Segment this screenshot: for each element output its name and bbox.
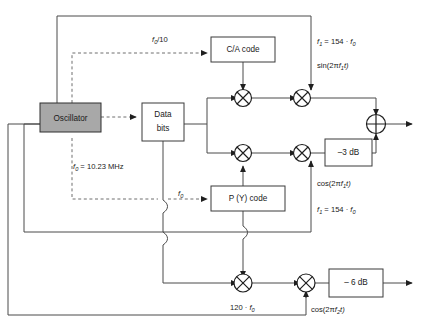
wire-data-bits-split	[184, 98, 237, 153]
label-cos1-t: t)	[346, 179, 351, 188]
block-attenuator-6db[interactable]: – 6 dB	[329, 269, 383, 297]
label-l2-carrier-cos: cos(2πf2t)	[311, 305, 345, 315]
label-sin-t: t)	[344, 61, 349, 70]
label-l1-bot-f0-sub: 0	[352, 209, 356, 215]
mixer-l2-carrier[interactable]	[297, 274, 315, 292]
block-attenuator-6db-label: – 6 dB	[344, 278, 368, 287]
block-ca-code[interactable]: C/A code	[211, 37, 275, 62]
label-ca-clock-rest: /10	[157, 35, 168, 44]
summer-node[interactable]	[367, 115, 386, 134]
label-l1-bot-eq: = 154 ·	[322, 205, 350, 214]
block-data-bits[interactable]: Data bits	[142, 103, 184, 141]
mixer-l1-inphase[interactable]	[294, 90, 311, 107]
label-cos2-t: t)	[340, 305, 345, 314]
block-data-bits-label-line2: bits	[157, 124, 170, 133]
label-py-clock-sub: 0	[180, 193, 184, 199]
block-data-bits-label-line1: Data	[154, 110, 172, 119]
label-l2-multiplier: 120 · f0	[230, 303, 256, 313]
wire-data-bits-to-l2	[163, 141, 237, 283]
block-ca-code-label: C/A code	[226, 45, 260, 54]
label-oscillator-frequency: f0 = 10.23 MHz	[73, 162, 124, 172]
mixer-py-data[interactable]	[235, 145, 252, 162]
block-py-code[interactable]: P (Y) code	[211, 186, 285, 211]
label-cos1-a: cos(2	[317, 179, 336, 188]
label-l2-mult-sub: 0	[252, 307, 256, 313]
block-attenuator-3db[interactable]: –3 dB	[325, 139, 372, 166]
label-l2-mult-a: 120 ·	[230, 303, 249, 312]
block-oscillator[interactable]: Oscillator	[40, 103, 101, 132]
label-l1-carrier-sin: sin(2πf1t)	[317, 61, 349, 71]
label-l1-frequency-top: f1 = 154 · f0	[317, 37, 356, 47]
mixer-ca-data[interactable]	[235, 90, 252, 107]
wire-osc-clock-to-ca	[72, 53, 207, 103]
wire-inphase-chain	[250, 98, 376, 115]
label-ca-clock: f0/10	[152, 35, 168, 45]
block-oscillator-label: Oscillator	[53, 114, 87, 123]
block-diagram-canvas: Oscillator C/A code Data bits P (Y) code…	[0, 0, 423, 333]
label-py-clock: f0	[178, 189, 184, 199]
gps-signal-block-diagram: Oscillator C/A code Data bits P (Y) code…	[0, 0, 423, 333]
block-py-code-label: P (Y) code	[229, 194, 268, 203]
mixer-l1-quadrature[interactable]	[294, 145, 311, 162]
label-l1-top-f0-sub: 0	[352, 41, 356, 47]
label-l1-carrier-cos: cos(2πf1t)	[317, 179, 351, 189]
label-l1-top-eq: = 154 ·	[322, 37, 350, 46]
label-sin-a: sin(2	[317, 61, 333, 70]
label-osc-rest: = 10.23 MHz	[78, 162, 124, 171]
wire-py-code-to-l2	[243, 208, 248, 277]
label-l1-frequency-bottom: f1 = 154 · f0	[317, 205, 356, 215]
mixer-py-data-l2[interactable]	[234, 274, 252, 292]
label-cos2-a: cos(2	[311, 305, 330, 314]
block-attenuator-3db-label: –3 dB	[338, 148, 360, 157]
